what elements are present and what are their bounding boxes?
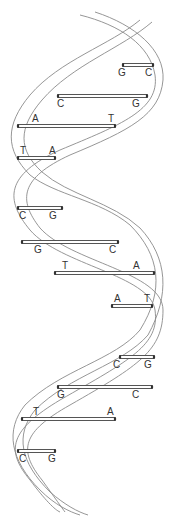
base-label-right: A [133,261,140,271]
base-label-left: A [32,114,39,124]
base-label-right: C [132,390,139,400]
base-pair-8 [112,305,152,308]
base-label-right: G [132,99,140,109]
phosphate-dot [61,206,63,210]
base-label-right: C [109,245,116,255]
phosphate-dot [117,240,119,244]
phosphate-dot [153,271,155,275]
base-label-left: T [33,407,39,417]
phosphate-dot [54,156,56,160]
base-label-right: T [144,294,150,304]
base-label-left: G [34,245,42,255]
base-label-right: A [107,407,114,417]
base-label-right: T [108,114,114,124]
phosphate-dot [151,304,153,308]
base-label-right: G [48,454,56,464]
phosphate-dot [17,156,19,160]
base-label-left: G [57,390,65,400]
base-label-left: C [57,99,64,109]
phosphate-dot [114,124,116,128]
base-label-left: T [62,261,68,271]
phosphate-dot [153,355,155,359]
base-label-left: A [114,294,121,304]
phosphate-dot [17,124,19,128]
base-pair-11 [22,418,115,421]
phosphate-dot [21,240,23,244]
base-label-right: G [49,211,57,221]
phosphate-dot [111,304,113,308]
phosphate-dot [54,271,56,275]
base-pair-4 [18,157,55,160]
base-label-left: C [113,360,120,370]
strand-a-inner [27,12,163,512]
phosphate-dot [151,385,153,389]
base-pair-7 [55,272,154,275]
base-label-left: C [19,454,26,464]
base-pair-3 [18,125,115,128]
base-label-right: C [145,68,152,78]
phosphate-dot [114,417,116,421]
base-label-left: T [20,146,26,156]
base-label-right: G [144,360,152,370]
phosphate-dot [21,417,23,421]
dna-double-helix [0,0,171,522]
base-label-left: G [118,68,126,78]
helix-strands [11,12,163,515]
base-label-right: A [49,146,56,156]
phosphate-dot [152,63,154,67]
base-label-left: C [19,211,26,221]
phosphate-dot [146,94,148,98]
